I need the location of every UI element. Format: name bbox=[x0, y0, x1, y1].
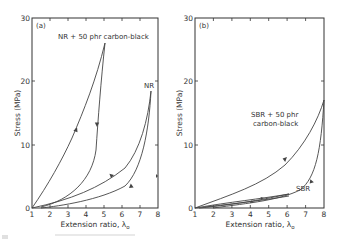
label-sbr-carbon-black-2: carbon-black bbox=[253, 120, 299, 128]
svg-text:4: 4 bbox=[84, 210, 89, 219]
svg-text:1: 1 bbox=[30, 210, 35, 219]
caption-fragment bbox=[2, 234, 135, 239]
svg-text:3: 3 bbox=[230, 210, 235, 219]
arrow-icon bbox=[129, 184, 134, 188]
svg-text:5: 5 bbox=[266, 210, 271, 219]
x-axis-label-b: Extension ratio, λo bbox=[225, 220, 295, 230]
ytick-30-b: 30 bbox=[183, 14, 193, 23]
curve-sbr-loading bbox=[195, 194, 289, 208]
svg-text:5: 5 bbox=[102, 210, 107, 219]
y-axis-label-a: Stress (MPa) bbox=[13, 90, 22, 137]
svg-text:3: 3 bbox=[66, 210, 71, 219]
label-nr: NR bbox=[144, 82, 154, 90]
panel-a: 30 20 10 0 1 2 3 4 5 6 7 8 Extension rat… bbox=[13, 14, 161, 230]
ytick-10-b: 10 bbox=[183, 141, 193, 150]
curve-nr-cb-loading bbox=[32, 43, 105, 208]
svg-text:8: 8 bbox=[156, 210, 161, 219]
panel-b: 30 20 10 0 1 2 3 4 5 6 7 8 Extension rat… bbox=[175, 14, 327, 230]
svg-text:4: 4 bbox=[248, 210, 253, 219]
ytick-10: 10 bbox=[20, 141, 30, 150]
plot-frame-a bbox=[32, 18, 158, 208]
x-axis-label-a: Extension ratio, λo bbox=[60, 220, 130, 230]
arrow-icon bbox=[283, 157, 287, 162]
arrow-icon bbox=[95, 122, 99, 127]
svg-text:8: 8 bbox=[322, 210, 327, 219]
svg-text:7: 7 bbox=[138, 210, 143, 219]
label-nr-carbon-black: NR + 50 phr carbon-black bbox=[58, 33, 150, 41]
panel-tag-a: (a) bbox=[36, 22, 46, 30]
figure: 30 20 10 0 1 2 3 4 5 6 7 8 Extension rat… bbox=[0, 0, 339, 240]
svg-text:6: 6 bbox=[285, 210, 290, 219]
label-sbr-carbon-black-1: SBR + 50 phr bbox=[251, 111, 298, 119]
curve-nr-loading bbox=[32, 91, 151, 208]
x-tick-labels-b: 1 2 3 4 5 6 7 8 bbox=[193, 210, 327, 219]
svg-text:1: 1 bbox=[193, 210, 198, 219]
ytick-20: 20 bbox=[20, 77, 30, 86]
svg-text:6: 6 bbox=[120, 210, 125, 219]
svg-text:2: 2 bbox=[211, 210, 216, 219]
label-sbr: SBR bbox=[296, 185, 310, 193]
curve-nr-cb-unloading bbox=[41, 43, 105, 207]
ytick-20-b: 20 bbox=[183, 77, 193, 86]
panel-tag-b: (b) bbox=[199, 22, 209, 30]
ytick-30: 30 bbox=[20, 14, 30, 23]
svg-text:2: 2 bbox=[48, 210, 53, 219]
y-axis-label-b: Stress (MPa) bbox=[175, 90, 184, 137]
x-tick-labels-a: 1 2 3 4 5 6 7 8 bbox=[30, 210, 161, 219]
svg-text:7: 7 bbox=[303, 210, 308, 219]
